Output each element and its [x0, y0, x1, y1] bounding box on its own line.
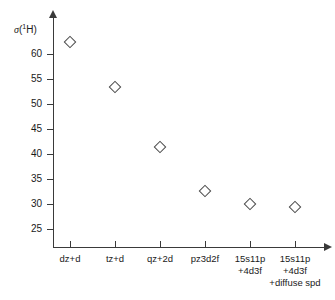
y-tick-label-60: 60 [18, 49, 42, 59]
y-tick-60 [47, 54, 53, 55]
data-point [199, 185, 212, 198]
data-point [64, 36, 77, 49]
x-axis-label-5-line-2: +diffuse spd [269, 277, 320, 289]
y-tick-35 [47, 179, 53, 180]
x-axis-line [53, 247, 325, 248]
x-axis-label-0: dz+d [60, 253, 81, 265]
x-tick-5 [295, 241, 296, 247]
data-point [289, 200, 302, 213]
y-tick-45 [47, 129, 53, 130]
y-tick-label-40: 40 [18, 149, 42, 159]
x-axis-label-2: qz+2d [147, 253, 173, 265]
x-axis-label-4-line-0: 15s11p [235, 253, 265, 264]
x-tick-1 [115, 241, 116, 247]
x-axis-label-1-line-0: tz+d [106, 253, 124, 264]
x-axis-label-1: tz+d [106, 253, 124, 265]
y-tick-55 [47, 79, 53, 80]
x-tick-2 [160, 241, 161, 247]
y-tick-label-35: 35 [18, 174, 42, 184]
y-tick-label-30: 30 [18, 199, 42, 209]
x-axis-label-2-line-0: qz+2d [147, 253, 173, 264]
paren-close: ) [33, 24, 36, 35]
y-tick-label-25: 25 [18, 224, 42, 234]
x-axis-label-4: 15s11p+4d3f [235, 253, 265, 277]
x-axis-arrow-icon [324, 243, 332, 251]
data-point [244, 198, 257, 211]
x-axis-label-3-line-0: pz3d2f [191, 253, 220, 264]
x-axis-label-3: pz3d2f [191, 253, 220, 265]
y-tick-30 [47, 204, 53, 205]
y-tick-label-55: 55 [18, 74, 42, 84]
x-tick-4 [250, 241, 251, 247]
y-tick-label-45: 45 [18, 124, 42, 134]
y-tick-50 [47, 104, 53, 105]
x-axis-label-5: 15s11p+4d3f+diffuse spd [269, 253, 320, 289]
scatter-plot: σ(1H) 2530354045505560 dz+dtz+dqz+2dpz3d… [0, 0, 335, 300]
y-tick-40 [47, 154, 53, 155]
y-tick-label-50: 50 [18, 99, 42, 109]
x-axis-label-5-line-0: 15s11p [280, 253, 310, 264]
x-axis-label-0-line-0: dz+d [60, 253, 81, 264]
x-tick-3 [205, 241, 206, 247]
x-tick-0 [70, 241, 71, 247]
x-axis-label-4-line-1: +4d3f [235, 265, 265, 277]
data-point [109, 80, 122, 93]
y-axis-line [53, 16, 54, 247]
y-axis-title: σ(1H) [14, 23, 37, 35]
y-axis-arrow-icon [49, 10, 57, 18]
y-tick-25 [47, 229, 53, 230]
x-axis-label-5-line-1: +4d3f [269, 265, 320, 277]
data-point [154, 141, 167, 154]
